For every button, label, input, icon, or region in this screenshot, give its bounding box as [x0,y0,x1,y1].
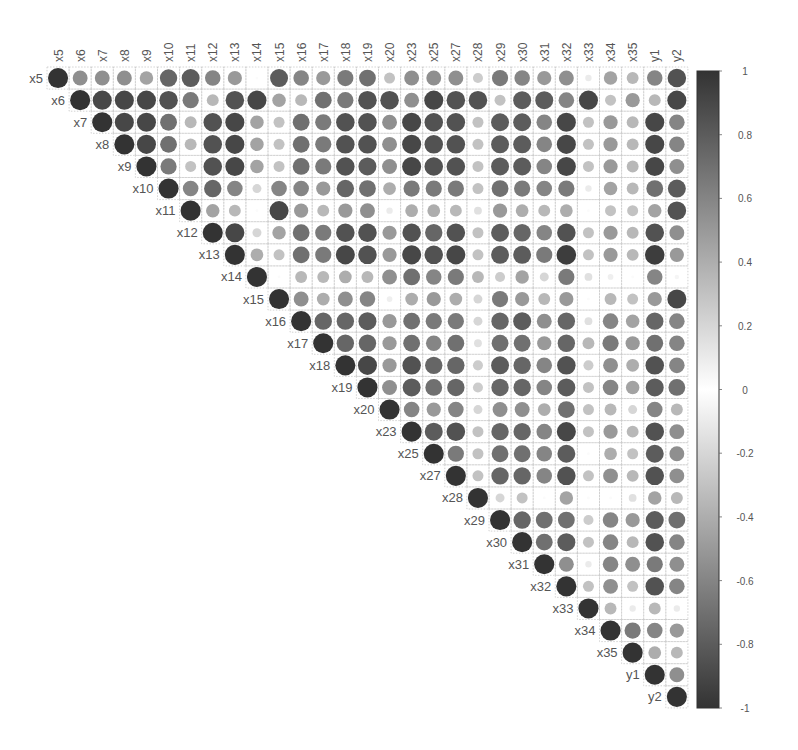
correlation-circle [648,646,661,659]
correlation-circle [160,69,177,86]
correlation-circle [70,90,90,110]
correlation-circle [513,157,531,175]
correlation-circle [515,402,530,417]
correlation-circle [513,135,531,153]
correlation-circle [405,204,418,217]
correlation-circle [629,494,637,502]
correlation-circle [645,135,664,154]
correlation-circle [358,246,377,265]
correlation-circle [605,404,617,416]
correlation-circle [491,113,509,131]
correlation-circle [160,136,177,153]
column-label: x13 [228,42,242,62]
correlation-circle [73,71,88,86]
correlation-circle [337,312,354,329]
colorbar-tick-label: 0.6 [738,193,752,204]
correlation-circle [447,157,466,176]
correlation-circle [358,113,377,132]
correlation-circle [338,204,352,218]
correlation-circle [626,314,639,327]
correlation-circle [468,488,488,508]
correlation-circle [492,70,508,86]
correlation-circle [402,157,421,176]
correlation-circle [540,272,549,281]
correlation-circle [669,667,684,682]
correlation-circle [404,93,419,108]
correlation-circle [628,405,637,414]
correlation-circle [225,113,244,132]
correlation-circle [645,422,664,441]
correlation-circle [558,401,575,418]
correlation-circle [668,379,685,396]
row-label: x18 [309,358,330,373]
correlation-circle [386,207,392,213]
column-label: x29 [494,42,508,62]
correlation-circle [382,314,396,328]
correlation-circle [669,557,684,572]
row-label: x9 [118,159,132,174]
correlation-circle [627,249,639,261]
row-label: x15 [243,292,264,307]
correlation-circle [587,452,590,455]
correlation-circle [48,68,68,88]
correlation-circle [336,157,355,176]
correlation-circle [536,534,553,551]
colorbar-tick-label: -0.4 [736,512,754,523]
correlation-circle [424,113,443,132]
correlation-circle [675,275,680,280]
correlation-circle [585,317,593,325]
color-legend: 10.80.60.40.20-0.2-0.4-0.6-0.8-1 [697,66,754,714]
correlation-circle [293,114,310,131]
correlation-circle [560,204,573,217]
correlation-circle [515,292,529,306]
correlation-circle [608,274,614,280]
correlation-circle [538,293,550,305]
correlation-circle [402,113,421,132]
correlation-circle [669,468,684,483]
colorbar-tick-label: 1 [742,66,748,77]
correlation-circle [140,71,153,84]
correlation-circle [185,138,197,150]
correlation-circle [647,556,663,572]
correlation-circle [183,181,199,197]
correlation-circle [536,114,552,130]
correlation-circle [583,139,594,150]
correlation-circle [583,117,594,128]
correlation-circle [446,245,465,264]
correlation-circle [537,336,551,350]
correlation-circle [137,113,156,132]
correlation-circle [473,382,483,392]
correlation-circle [557,422,576,441]
correlation-circle [669,114,685,130]
column-label: x32 [560,42,574,62]
column-label: x25 [427,42,441,62]
row-label: y1 [626,667,640,682]
row-label: x23 [376,424,397,439]
column-label: x31 [538,42,552,62]
column-label: x9 [140,49,154,62]
colorbar-tick-label: -0.2 [736,448,754,459]
correlation-circle [424,157,443,176]
correlation-circle [360,291,376,307]
correlation-circle [425,224,442,241]
correlation-circle [605,603,617,615]
correlation-circle [669,159,684,174]
row-label: x19 [331,380,352,395]
correlation-circle [557,378,575,396]
correlation-circle [646,312,663,329]
correlation-circle [556,576,576,596]
correlation-circle [491,135,509,153]
correlation-circle [294,292,309,307]
correlation-circle [627,183,639,195]
row-label: x33 [552,601,573,616]
correlation-circle [668,201,687,220]
correlation-circle [359,335,376,352]
correlation-circle [646,180,663,197]
row-label: x12 [177,225,198,240]
correlation-circle [427,204,440,217]
correlation-circle [605,205,616,216]
correlation-circle [293,246,310,263]
row-label: x29 [464,513,485,528]
correlation-circle [137,91,156,110]
correlation-circle [627,116,639,128]
